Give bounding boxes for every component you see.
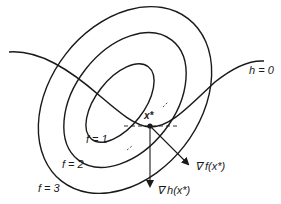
contour-label-f2: f = 2	[62, 158, 84, 170]
contour-tick	[127, 146, 132, 150]
grad-f-arrow	[150, 126, 188, 164]
optimum-label: x*	[144, 110, 153, 121]
grad-h-label: ∇ h(x*)	[157, 184, 190, 197]
contour-tick	[163, 102, 168, 107]
constraint-curve-h0	[9, 52, 264, 127]
grad-f-label: ∇ f(x*)	[195, 160, 225, 173]
contour-label-f1: f = 1	[86, 133, 108, 145]
contour-f3	[2, 0, 247, 204]
contour-label-f3: f = 3	[38, 182, 60, 194]
diagram-canvas	[0, 0, 281, 204]
constraint-label: h = 0	[249, 64, 274, 76]
